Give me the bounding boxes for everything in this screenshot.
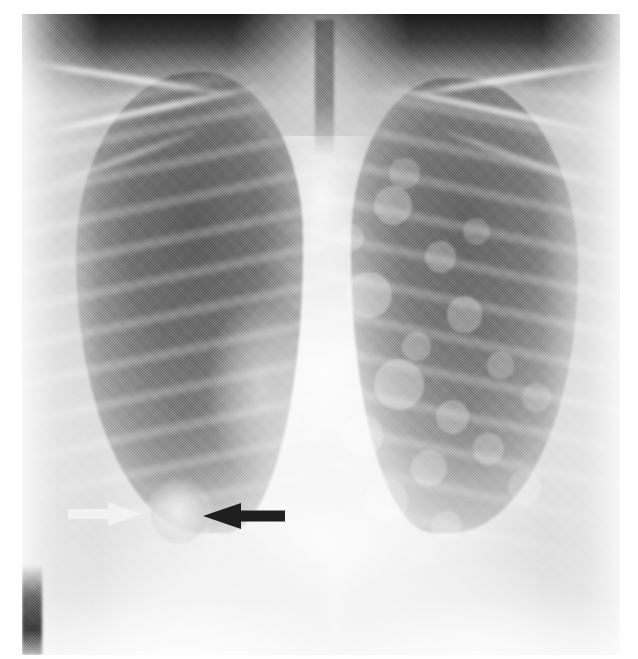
black-arrow-annotation bbox=[203, 503, 285, 529]
figure-canvas bbox=[0, 0, 638, 659]
white-arrow-annotation bbox=[68, 502, 142, 526]
annotation-arrow-layer bbox=[0, 0, 638, 659]
